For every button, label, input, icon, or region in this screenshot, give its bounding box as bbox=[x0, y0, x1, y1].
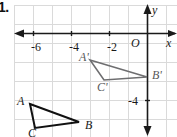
vertex-label-C: C bbox=[28, 126, 36, 137]
geometry-figure: 1. bbox=[0, 0, 177, 137]
y-axis bbox=[144, 4, 152, 136]
problem-number: 1. bbox=[0, 0, 9, 15]
vertex-label-A: A bbox=[17, 94, 24, 109]
origin-label: O bbox=[131, 36, 140, 51]
y-axis-label: y bbox=[152, 3, 157, 18]
vertex-label-B: B bbox=[85, 118, 92, 133]
y-tick-label-neg4: -4 bbox=[128, 94, 138, 109]
x-tick-label-neg6: -6 bbox=[31, 40, 41, 55]
x-axis bbox=[14, 30, 177, 38]
x-axis-label: x bbox=[166, 36, 171, 51]
vertex-label-B-prime: B' bbox=[152, 68, 162, 83]
coordinate-plane bbox=[0, 0, 177, 137]
vertex-label-A-prime: A' bbox=[79, 50, 89, 65]
vertex-label-C-prime: C' bbox=[97, 80, 108, 95]
x-tick-label-neg4: -4 bbox=[69, 40, 79, 55]
x-tick-label-neg2: -2 bbox=[107, 40, 117, 55]
